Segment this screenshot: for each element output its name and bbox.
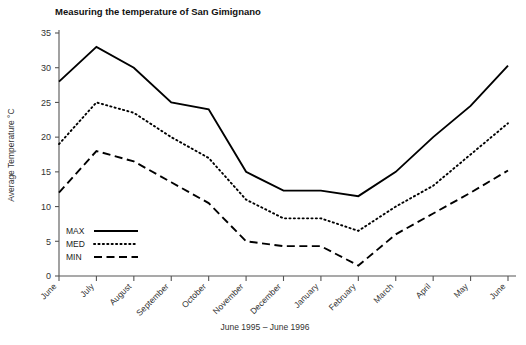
x-axis: JuneJulyAugustSeptemberOctoberNovemberDe… (38, 276, 508, 318)
y-tick-label: 0 (46, 271, 51, 281)
x-axis-title: June 1995 – June 1996 (221, 322, 310, 332)
series-lines (59, 47, 508, 266)
x-tick-label: November (211, 281, 246, 316)
x-tick-label: July (78, 281, 96, 299)
y-axis: 05101520253035 (41, 28, 59, 281)
legend-label-max: MAX (66, 226, 85, 236)
x-tick-label: August (107, 281, 133, 307)
y-axis-title: Average Temperature °C (6, 108, 16, 201)
legend-label-min: MIN (66, 252, 82, 262)
y-tick-label: 10 (41, 202, 51, 212)
x-tick-label: October (180, 281, 209, 310)
y-tick-label: 35 (41, 28, 51, 38)
chart-title: Measuring the temperature of San Gimigna… (55, 6, 261, 17)
chart-canvas: Measuring the temperature of San Gimigna… (0, 0, 526, 345)
x-tick-label: February (327, 281, 359, 313)
y-tick-label: 5 (46, 237, 51, 247)
series-line-max (59, 47, 508, 196)
x-tick-label: September (134, 281, 171, 318)
x-tick-label: June (38, 281, 58, 301)
chart-legend: MAXMEDMIN (66, 226, 138, 262)
x-tick-label: January (292, 281, 321, 310)
x-tick-label: June (487, 281, 507, 301)
y-tick-label: 25 (41, 98, 51, 108)
x-tick-label: December (248, 281, 283, 316)
series-line-med (59, 102, 508, 230)
temperature-line-chart: Measuring the temperature of San Gimigna… (0, 0, 526, 345)
x-tick-label: March (371, 281, 395, 305)
series-line-min (59, 151, 508, 266)
legend-label-med: MED (66, 239, 85, 249)
y-tick-label: 20 (41, 132, 51, 142)
x-tick-label: April (413, 281, 432, 300)
y-tick-label: 15 (41, 167, 51, 177)
x-tick-label: May (452, 281, 471, 300)
y-tick-label: 30 (41, 63, 51, 73)
